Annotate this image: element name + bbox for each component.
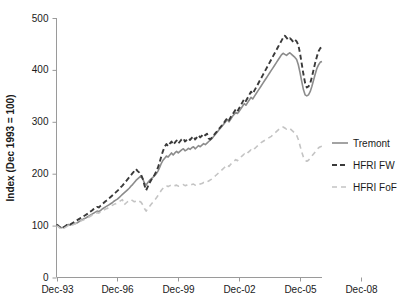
- y-tick-label: 0: [43, 272, 49, 283]
- x-tick-label: Dec-08: [345, 284, 378, 295]
- y-tick-label: 400: [32, 64, 49, 75]
- y-tick-label: 500: [32, 13, 49, 24]
- x-tick-label: Dec-05: [284, 284, 317, 295]
- chart-background: [0, 0, 398, 304]
- y-axis-title: Index (Dec 1993 = 100): [5, 94, 16, 201]
- x-tick-label: Dec-96: [101, 284, 134, 295]
- chart-container: 0100200300400500 Dec-93Dec-96Dec-99Dec-0…: [0, 0, 398, 304]
- legend-label-hfri-fof: HFRI FoF: [353, 182, 397, 193]
- y-tick-label: 300: [32, 116, 49, 127]
- index-performance-line-chart: 0100200300400500 Dec-93Dec-96Dec-99Dec-0…: [0, 0, 398, 304]
- legend-label-hfri-fw: HFRI FW: [353, 160, 395, 171]
- x-tick-label: Dec-99: [162, 284, 195, 295]
- x-tick-label: Dec-93: [41, 284, 74, 295]
- y-tick-label: 100: [32, 220, 49, 231]
- legend-label-tremont: Tremont: [353, 138, 390, 149]
- x-tick-label: Dec-02: [223, 284, 256, 295]
- y-tick-label: 200: [32, 168, 49, 179]
